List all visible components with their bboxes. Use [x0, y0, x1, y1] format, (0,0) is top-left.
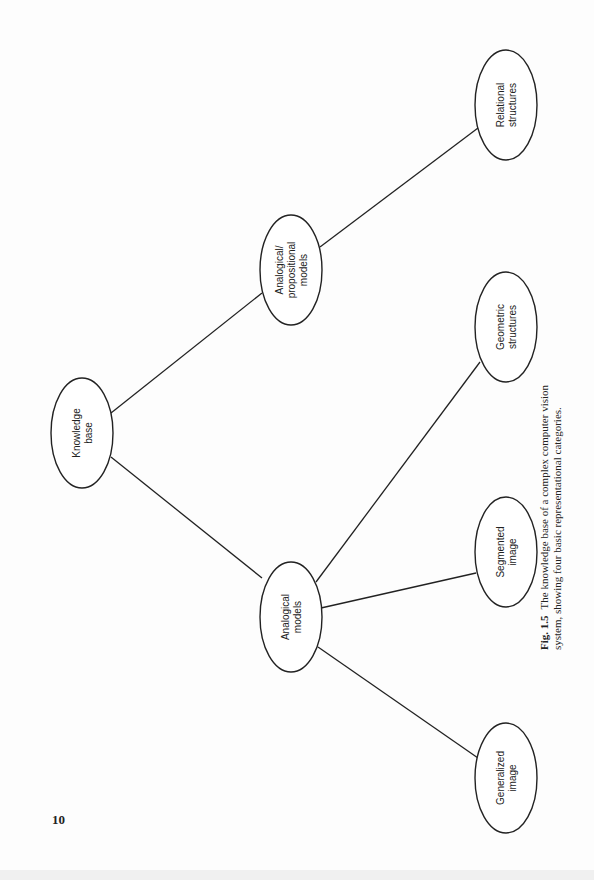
- edge-kb-to-analogical-models: [111, 457, 262, 578]
- node-segmented-image: [475, 497, 537, 607]
- label-line: propositional: [286, 242, 297, 299]
- label-line: image: [507, 764, 518, 792]
- tree-diagram: Knowledge base Analogical/ propositional…: [0, 0, 594, 880]
- label-line: structures: [507, 83, 518, 127]
- label-line: Analogical: [280, 594, 291, 640]
- edge-am-to-generalized: [318, 647, 478, 758]
- label-line: models: [298, 254, 309, 286]
- caption-text: The knowledge base of a complex computer…: [538, 385, 563, 650]
- edge-ap-to-relational: [320, 128, 478, 247]
- figure-caption: Fig. 1.5The knowledge base of a complex …: [538, 380, 564, 650]
- figure-label: Fig. 1.5: [538, 615, 550, 650]
- label-line: Knowledge: [71, 408, 82, 458]
- label-line: structures: [507, 305, 518, 349]
- node-relational-structures: [475, 50, 537, 160]
- node-knowledge-base: [51, 378, 113, 488]
- label-line: Geometric: [495, 304, 506, 350]
- label-line: base: [83, 422, 94, 444]
- label-line: Generalized: [495, 751, 506, 805]
- edge-am-to-segmented: [321, 573, 476, 608]
- label-line: image: [507, 538, 518, 566]
- book-page: Knowledge base Analogical/ propositional…: [0, 0, 594, 880]
- node-analogical-models: [260, 562, 322, 672]
- label-line: models: [292, 601, 303, 633]
- page-number: 10: [52, 812, 65, 828]
- label-relational-structures: Relational structures: [495, 83, 518, 127]
- node-generalized-image: [475, 723, 537, 833]
- node-geometric-structures: [475, 272, 537, 382]
- edge-kb-to-analogical-propositional: [111, 293, 262, 413]
- label-line: Analogical/: [274, 245, 285, 294]
- scan-edge: [0, 870, 594, 880]
- label-line: Relational: [495, 83, 506, 127]
- edge-am-to-geometric: [316, 362, 480, 582]
- label-line: Segmented: [495, 526, 506, 577]
- label-geometric-structures: Geometric structures: [495, 304, 518, 350]
